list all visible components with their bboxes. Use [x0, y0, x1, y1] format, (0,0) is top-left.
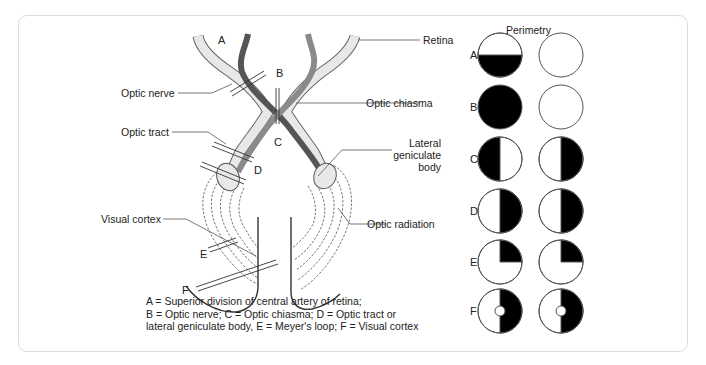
perimetry-row-a — [478, 33, 583, 77]
perimetry-row-letter-e: E — [470, 256, 477, 268]
label-retina: Retina — [423, 34, 453, 46]
lesion-letter-c: C — [274, 136, 282, 148]
label-optic-nerve: Optic nerve — [121, 87, 175, 99]
lesion-letter-d: D — [254, 164, 262, 176]
perimetry-title: Perimetry — [506, 24, 551, 36]
lesion-letter-a: A — [218, 34, 225, 46]
label-optic-tract: Optic tract — [121, 126, 169, 138]
perimetry-row-letter-a: A — [470, 49, 477, 61]
label-lateral-geniculate-body: Lateral geniculate body — [392, 137, 441, 173]
perimetry-row-letter-b: B — [470, 101, 477, 113]
perimetry-row-letter-d: D — [470, 205, 478, 217]
label-optic-radiation: Optic radiation — [367, 218, 435, 230]
perimetry-row-b — [478, 85, 583, 129]
perimetry-row-c — [478, 137, 583, 181]
figure-caption: A = Superior division of central artery … — [146, 295, 418, 333]
lesion-letter-b: B — [276, 67, 283, 79]
perimetry-row-f — [478, 289, 583, 333]
perimetry-fields — [478, 33, 583, 333]
perimetry-row-d — [478, 189, 583, 233]
lesion-letter-e: E — [200, 248, 207, 260]
perimetry-row-letter-f: F — [470, 305, 477, 317]
perimetry-row-e — [478, 240, 583, 284]
perimetry-row-letter-c: C — [470, 153, 478, 165]
label-optic-chiasma: Optic chiasma — [366, 97, 433, 109]
label-visual-cortex: Visual cortex — [101, 213, 161, 225]
